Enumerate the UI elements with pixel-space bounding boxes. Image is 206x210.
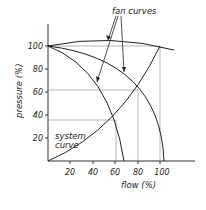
y-tick-20: 20 — [33, 134, 43, 143]
y-axis-label: pressure (%) — [14, 64, 24, 120]
y-tick-80: 80 — [33, 65, 43, 74]
x-tick-60: 60 — [110, 168, 120, 177]
x-axis-label: flow (%) — [121, 180, 156, 190]
fan-system-diagram: fan curves system curve flow (%) pressur… — [0, 0, 206, 210]
y-tick-40: 40 — [33, 111, 43, 120]
y-tick-60: 60 — [33, 88, 43, 97]
x-tick-20: 20 — [65, 168, 75, 177]
x-tick-100: 100 — [154, 168, 169, 177]
x-tick-40: 40 — [88, 168, 98, 177]
fan-curve-flat — [48, 40, 174, 50]
system-curve-label-2: curve — [55, 140, 79, 150]
x-tick-80: 80 — [133, 168, 143, 177]
y-tick-100: 100 — [28, 42, 43, 51]
fan-curves-label: fan curves — [112, 6, 157, 16]
